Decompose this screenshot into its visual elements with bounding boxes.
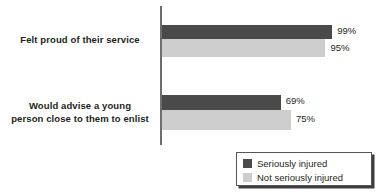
legend-item-label: Not seriously injured: [257, 172, 343, 183]
bar-value-label: 95%: [330, 42, 349, 53]
bar-value-label: 99%: [337, 25, 356, 36]
bar-value-label: 75%: [296, 113, 315, 124]
category-label-felt-proud: Felt proud of their service: [5, 34, 155, 47]
legend-swatch-icon: [243, 173, 252, 182]
bar-would-advise-seriously-injured: [162, 95, 281, 110]
category-label-line: Would advise a young: [29, 100, 131, 111]
legend-swatch-icon: [243, 159, 252, 168]
bar-felt-proud-seriously-injured: [162, 25, 332, 39]
chart-legend: Seriously injured Not seriously injured: [236, 152, 372, 186]
legend-item-not-seriously-injured: Not seriously injured: [243, 170, 371, 184]
category-label-line: person close to them to enlist: [11, 113, 149, 124]
legend-item-label: Seriously injured: [257, 158, 327, 169]
bar-felt-proud-not-seriously-injured: [162, 39, 325, 58]
category-label-line: Felt proud of their service: [20, 34, 139, 45]
bar-would-advise-not-seriously-injured: [162, 110, 291, 130]
legend-item-seriously-injured: Seriously injured: [243, 156, 371, 170]
category-label-would-advise: Would advise a young person close to the…: [5, 100, 155, 125]
bar-value-label: 69%: [286, 95, 305, 106]
bar-chart: Felt proud of their service Would advise…: [0, 0, 379, 194]
